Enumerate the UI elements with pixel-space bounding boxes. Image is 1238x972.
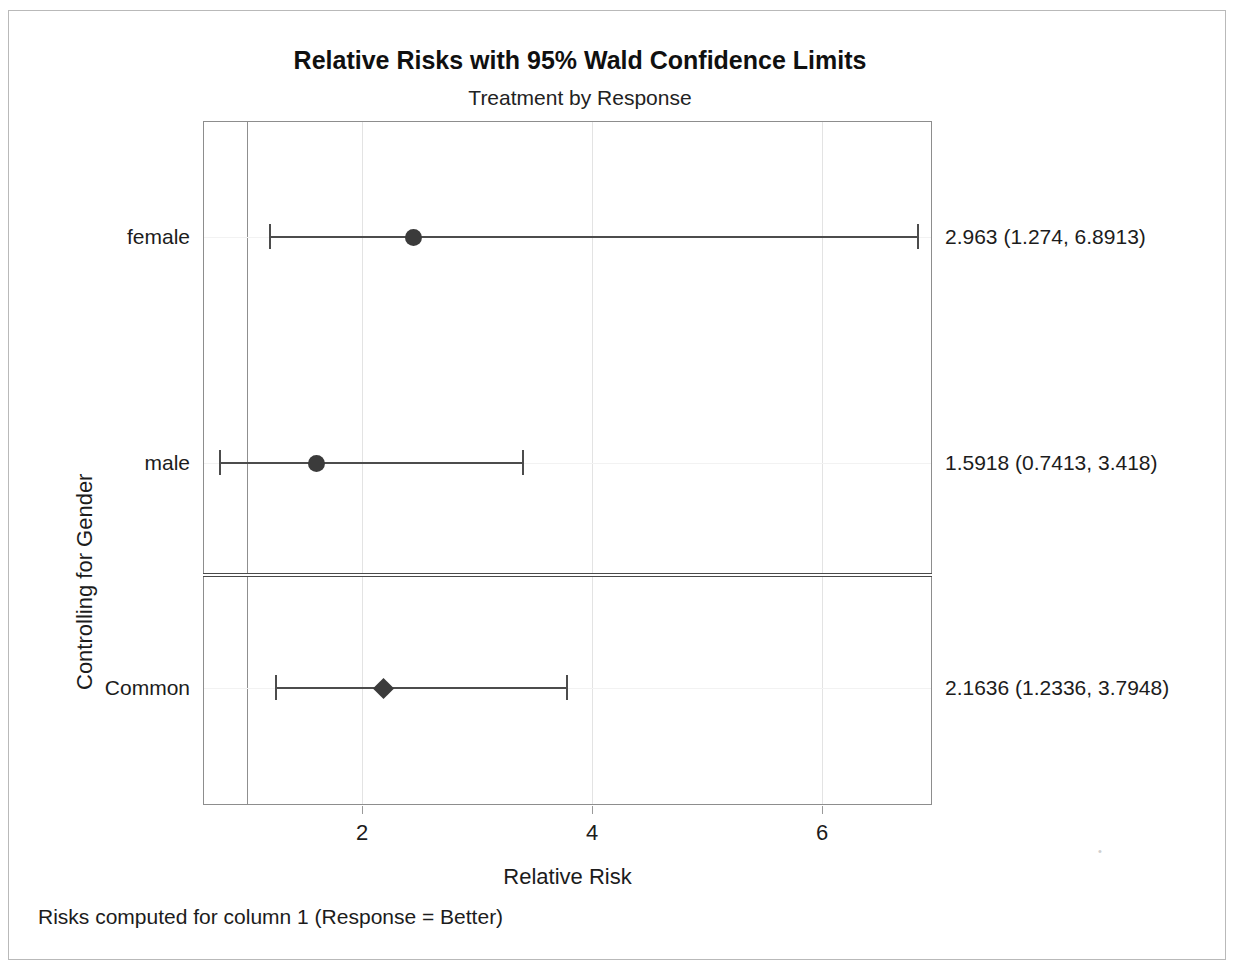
y-axis-title: Controlling for Gender bbox=[72, 474, 98, 690]
estimate-marker-male bbox=[308, 455, 325, 472]
chart-page: Relative Risks with 95% Wald Confidence … bbox=[0, 0, 1238, 972]
value-label-male: 1.5918 (0.7413, 3.418) bbox=[945, 451, 1158, 475]
ci-cap-upper-female bbox=[917, 224, 919, 249]
row-label-female: female bbox=[0, 225, 190, 249]
stratum-common-separator bbox=[203, 573, 932, 577]
value-label-common: 2.1636 (1.2336, 3.7948) bbox=[945, 676, 1169, 700]
ci-cap-lower-common bbox=[275, 675, 277, 700]
value-label-female: 2.963 (1.274, 6.8913) bbox=[945, 225, 1146, 249]
row-label-male: male bbox=[0, 451, 190, 475]
tick-label-2: 2 bbox=[332, 820, 392, 846]
tick-mark-4 bbox=[592, 806, 593, 814]
chart-footnote: Risks computed for column 1 (Response = … bbox=[38, 905, 503, 929]
ci-cap-upper-male bbox=[522, 450, 524, 475]
tick-mark-6 bbox=[822, 806, 823, 814]
ci-bar-male bbox=[219, 462, 523, 464]
estimate-marker-female bbox=[405, 229, 422, 246]
tick-mark-2 bbox=[362, 806, 363, 814]
ci-bar-female bbox=[269, 236, 918, 238]
ci-cap-lower-male bbox=[219, 450, 221, 475]
ci-bar-common bbox=[275, 687, 567, 689]
chart-subtitle: Treatment by Response bbox=[0, 86, 1160, 110]
scan-artifact: • bbox=[1098, 845, 1102, 857]
chart-title: Relative Risks with 95% Wald Confidence … bbox=[0, 46, 1160, 75]
tick-label-6: 6 bbox=[792, 820, 852, 846]
tick-label-4: 4 bbox=[562, 820, 622, 846]
ci-cap-lower-female bbox=[269, 224, 271, 249]
ci-cap-upper-common bbox=[566, 675, 568, 700]
x-axis-title: Relative Risk bbox=[203, 864, 932, 890]
